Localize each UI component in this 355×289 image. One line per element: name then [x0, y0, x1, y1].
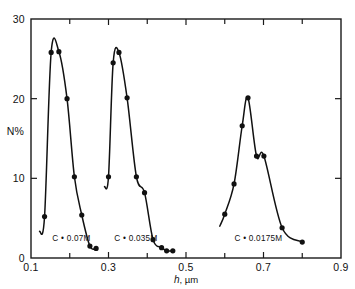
data-point-marker: [280, 225, 285, 230]
data-point-marker: [116, 50, 121, 55]
data-point-marker: [245, 95, 250, 100]
data-point-marker: [300, 239, 305, 244]
y-tick-label: 0: [19, 252, 25, 264]
data-point-marker: [56, 49, 61, 54]
data-point-marker: [72, 174, 77, 179]
x-tick-label: 0.5: [178, 261, 194, 273]
y-axis-title: N%: [7, 125, 24, 137]
x-tick-label: 0.3: [101, 261, 117, 273]
data-point-marker: [134, 174, 139, 179]
data-series: [40, 38, 99, 251]
x-tick-label: 0.1: [23, 261, 39, 273]
data-point-marker: [79, 212, 84, 217]
x-axis-title: h, µm: [174, 274, 198, 285]
data-point-marker: [125, 95, 130, 100]
data-point-marker: [94, 246, 99, 251]
data-series: [105, 48, 176, 254]
data-point-marker: [231, 181, 236, 186]
x-axis-title-unit: , µm: [179, 274, 198, 285]
series-annotation-label: C • 0.07M: [52, 234, 90, 243]
x-axis-tick-labels: 0.10.30.50.70.9: [23, 261, 349, 273]
y-tick-label: 20: [13, 93, 25, 105]
data-point-marker: [111, 60, 116, 65]
series-annotations-group: C • 0.07MC • 0.035MC • 0.0175M: [52, 234, 282, 243]
data-point-marker: [240, 123, 245, 128]
series-annotation-label: C • 0.035M: [114, 234, 157, 243]
distribution-chart: 0.10.30.50.70.9 0102030 h, µm N% C • 0.0…: [0, 0, 355, 289]
series-annotation-label: C • 0.0175M: [234, 234, 282, 243]
data-point-marker: [222, 212, 227, 217]
data-point-marker: [106, 174, 111, 179]
x-tick-label: 0.9: [333, 261, 349, 273]
data-point-marker: [261, 153, 266, 158]
y-tick-label: 30: [13, 13, 25, 25]
data-point-marker: [87, 243, 92, 248]
data-point-marker: [42, 214, 47, 219]
data-point-marker: [142, 190, 147, 195]
data-series-group: [40, 38, 305, 253]
x-tick-label: 0.7: [256, 261, 272, 273]
series-curve: [105, 48, 173, 252]
plot-frame: [31, 19, 341, 258]
series-curve: [40, 38, 97, 249]
chart-figure: 0.10.30.50.70.9 0102030 h, µm N% C • 0.0…: [0, 0, 355, 289]
series-curve: [220, 97, 303, 242]
axis-ticks: [31, 19, 341, 258]
data-series: [220, 95, 305, 244]
data-point-marker: [49, 50, 54, 55]
y-tick-label: 10: [13, 172, 25, 184]
data-point-marker: [159, 245, 164, 250]
data-point-marker: [164, 248, 169, 253]
data-point-marker: [64, 96, 69, 101]
data-point-marker: [254, 153, 259, 158]
y-axis-tick-labels: 0102030: [13, 13, 25, 264]
data-point-marker: [170, 248, 175, 253]
